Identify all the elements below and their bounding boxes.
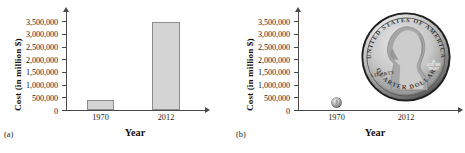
panel-b-ytick-1: 500,000: [232, 94, 290, 103]
panel-a-xtick-1970: 1970: [80, 113, 121, 122]
panel-a-ytick-2: 1,000,000: [0, 81, 58, 90]
panel-b-ytick-6: 3,000,000: [232, 30, 290, 39]
figure-container: Cost (in million $) 0 500,000 1,000,000 …: [0, 0, 465, 153]
panel-a-bar-1970: [87, 100, 114, 110]
panel-a-ytick-5: 2,500,000: [0, 43, 58, 52]
panel-b-ytick-4: 2,000,000: [232, 56, 290, 65]
coin-inscription-trust-line3: TRUST: [428, 67, 439, 71]
panel-a-x-axis-label: Year: [95, 127, 175, 138]
panel-a-xtick-2012: 2012: [145, 113, 187, 122]
panel-b-x-axis-line: [298, 110, 458, 111]
panel-a-ytick-3: 1,500,000: [0, 68, 58, 77]
panel-a-letter: (a): [4, 130, 13, 139]
panel-a-x-axis-line: [66, 110, 205, 111]
panel-b-y-axis-arrow: [295, 7, 301, 12]
panel-b-ytick-0: 0: [232, 107, 290, 116]
panel-b-x-axis-label: Year: [335, 127, 415, 138]
panel-a-ytick-6: 3,000,000: [0, 30, 58, 39]
panel-b-xtick-1970: 1970: [316, 113, 357, 122]
panel-a-bar-2012: [152, 22, 180, 110]
panel-b-x-axis-arrow: [458, 107, 463, 113]
panel-a-x-axis-arrow: [205, 107, 210, 113]
panel-b-ytick-5: 2,500,000: [232, 43, 290, 52]
panel-a-ytick-7: 3,500,000: [0, 18, 58, 27]
panel-b-letter: (b): [236, 130, 246, 139]
small-coin-1970-icon: [331, 97, 342, 108]
panel-a-ytick-1: 500,000: [0, 94, 58, 103]
panel-a-bar-chart: Cost (in million $) 0 500,000 1,000,000 …: [0, 0, 232, 153]
panel-a-y-axis-line: [66, 12, 67, 110]
panel-b-ytick-7: 3,500,000: [232, 18, 290, 27]
panel-b-ytick-2: 1,000,000: [232, 81, 290, 90]
large-coin-2012-quarter-icon: UNITED STATES OF AMERICA QUARTER DOLLAR …: [360, 11, 452, 103]
panel-b-xtick-2012: 2012: [385, 113, 427, 122]
panel-a-y-axis-arrow: [63, 7, 69, 12]
panel-a-ytick-0: 0: [0, 107, 58, 116]
panel-a-ytick-4: 2,000,000: [0, 56, 58, 65]
panel-b-ytick-3: 1,500,000: [232, 68, 290, 77]
panel-b-y-axis-line: [298, 12, 299, 110]
panel-b-pictograph-chart: Cost (in million $) 0 500,000 1,000,000 …: [232, 0, 464, 153]
